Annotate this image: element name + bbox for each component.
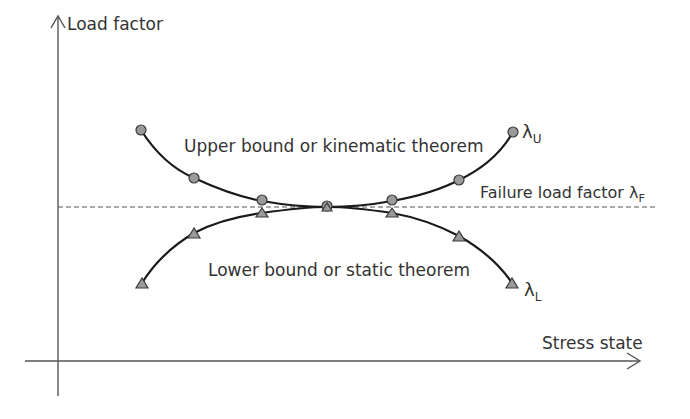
- circle-marker-icon: [257, 195, 267, 205]
- lambda-upper-subscript: U: [533, 132, 542, 146]
- lower-theorem-label: Lower bound or static theorem: [208, 260, 470, 280]
- circle-marker-icon: [387, 195, 397, 205]
- triangle-marker-icon: [453, 231, 465, 241]
- upper-theorem-label: Upper bound or kinematic theorem: [184, 136, 483, 156]
- bounds-diagram: Load factor Stress state Upper bound or …: [0, 0, 690, 419]
- lambda-symbol: λ: [522, 121, 533, 142]
- circle-marker-icon: [454, 175, 464, 185]
- lambda-upper-label: λU: [522, 121, 541, 146]
- triangle-marker-icon: [188, 228, 200, 238]
- triangle-marker-icon: [136, 278, 148, 288]
- y-axis-label: Load factor: [67, 14, 163, 34]
- failure-load-text: Failure load factor λ: [480, 183, 638, 202]
- failure-load-label: Failure load factor λF: [480, 183, 645, 205]
- circle-marker-icon: [508, 127, 518, 137]
- lambda-lower-subscript: L: [535, 290, 542, 304]
- lambda-symbol: λ: [524, 279, 535, 300]
- lambda-lower-label: λL: [524, 279, 542, 304]
- circle-marker-icon: [189, 173, 199, 183]
- x-axis-label: Stress state: [542, 333, 643, 353]
- failure-subscript: F: [638, 192, 644, 205]
- circle-marker-icon: [136, 125, 146, 135]
- triangle-marker-icon: [506, 278, 518, 288]
